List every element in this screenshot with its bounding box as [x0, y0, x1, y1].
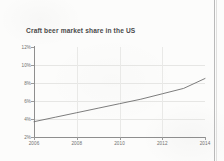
y-axis-tick-mark [31, 47, 34, 48]
x-axis-tick-label: 2008 [71, 141, 82, 146]
x-axis-tick-mark [34, 137, 35, 140]
x-axis-tick-label: 2010 [114, 141, 125, 146]
x-axis-tick-mark [120, 137, 121, 140]
data-series-line [34, 47, 205, 137]
y-axis-tick-label: 6% [24, 99, 31, 104]
x-axis-tick-label: 2006 [29, 141, 40, 146]
y-axis-tick-label: 8% [24, 81, 31, 86]
page-edge-line [214, 0, 215, 161]
x-axis-tick-labels: 20062008201020122014 [0, 141, 224, 151]
y-axis-tick-label: 10% [22, 63, 32, 68]
y-axis-tick-label: 2% [24, 135, 31, 140]
y-axis-tick-mark [31, 101, 34, 102]
y-axis-tick-label: 12% [22, 45, 32, 50]
y-axis-tick-mark [31, 65, 34, 66]
scanned-page: Craft beer market share in the US 12%10%… [0, 0, 224, 161]
y-axis-tick-mark [31, 83, 34, 84]
page-edge-line-secondary [216, 0, 217, 161]
x-axis-tick-mark [205, 137, 206, 140]
chart-figure: 12%10%8%6%4%2% 20062008201020122014 [0, 0, 224, 161]
y-axis-tick-label: 4% [24, 117, 31, 122]
y-axis-tick-mark [31, 119, 34, 120]
y-axis-tick-labels: 12%10%8%6%4%2% [8, 0, 31, 161]
series-polyline [34, 79, 205, 122]
x-axis-tick-label: 2014 [200, 141, 211, 146]
x-axis-tick-mark [162, 137, 163, 140]
x-axis-tick-label: 2012 [157, 141, 168, 146]
x-axis-tick-mark [77, 137, 78, 140]
